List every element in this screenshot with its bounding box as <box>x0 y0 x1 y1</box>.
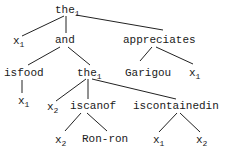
tree-node: isfood <box>4 67 44 79</box>
node-label: x <box>13 35 20 47</box>
tree-edge <box>56 79 86 101</box>
node-label: Ron-ron <box>82 133 128 145</box>
tree-edge <box>68 47 90 65</box>
tree-edge <box>76 15 163 30</box>
node-label: the <box>77 67 97 79</box>
tree-edge <box>156 47 193 64</box>
tree-node: x1 <box>189 67 200 79</box>
tree-node: iscanof <box>70 100 116 112</box>
node-label: appreciates <box>123 34 196 46</box>
parse-tree: the1x1andappreciatesisfoodthe1Garigoux1x… <box>0 0 230 154</box>
node-label: x <box>189 67 196 79</box>
tree-node: x2 <box>47 101 58 113</box>
tree-edge <box>180 113 200 132</box>
node-label: iscanof <box>70 100 116 112</box>
tree-node: Garigou <box>125 67 171 79</box>
tree-node: x1 <box>13 35 24 47</box>
node-label: iscontainedin <box>133 100 219 112</box>
node-subscript: 2 <box>203 139 208 148</box>
node-label: x <box>153 134 160 146</box>
node-subscript: 1 <box>196 72 201 81</box>
node-label: isfood <box>4 67 44 79</box>
tree-edge <box>159 113 177 132</box>
tree-node: the1 <box>77 67 102 79</box>
node-label: x <box>196 134 203 146</box>
node-label: x <box>18 95 25 107</box>
node-subscript: 2 <box>62 139 67 148</box>
node-label: and <box>55 34 75 46</box>
node-label: Garigou <box>125 67 171 79</box>
tree-edge <box>65 113 81 131</box>
tree-node: x2 <box>55 134 66 146</box>
tree-node: x1 <box>18 95 29 107</box>
node-label: the <box>55 4 75 16</box>
node-subscript: 1 <box>75 9 80 18</box>
node-label: x <box>55 134 62 146</box>
tree-edge <box>140 47 152 61</box>
tree-edge <box>92 79 176 99</box>
node-subscript: 1 <box>25 100 30 109</box>
tree-node: x1 <box>153 134 164 146</box>
tree-edge <box>87 113 107 131</box>
tree-node: Ron-ron <box>82 133 128 145</box>
tree-node: the1 <box>55 4 80 16</box>
tree-node: appreciates <box>123 34 196 46</box>
tree-node: and <box>55 34 75 46</box>
node-label: x <box>47 101 54 113</box>
node-subscript: 1 <box>160 139 165 148</box>
node-subscript: 1 <box>97 72 102 81</box>
tree-node: iscontainedin <box>133 100 219 112</box>
node-subscript: 1 <box>20 40 25 49</box>
node-subscript: 2 <box>54 106 59 115</box>
tree-node: x2 <box>196 134 207 146</box>
tree-edge <box>28 47 60 65</box>
tree-edge <box>22 16 64 36</box>
